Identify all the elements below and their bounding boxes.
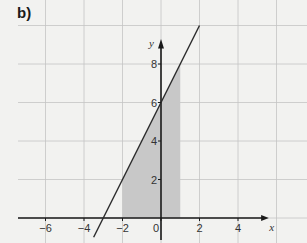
line-chart: −6−4−20242468xy [0, 0, 307, 243]
x-tick-label: −4 [78, 222, 91, 234]
x-tick-label: −6 [39, 222, 52, 234]
y-tick-label: 4 [151, 135, 157, 147]
y-axis-label: y [148, 37, 154, 49]
x-axis-arrow-icon [261, 215, 269, 221]
y-tick-label: 8 [151, 58, 157, 70]
x-tick-label: 0 [153, 222, 159, 234]
x-tick-label: 4 [235, 222, 241, 234]
y-tick-label: 2 [151, 174, 157, 186]
y-axis-arrow-icon [158, 39, 164, 49]
x-tick-label: −2 [116, 222, 129, 234]
x-axis-label: x [268, 221, 274, 233]
y-tick-label: 6 [151, 97, 157, 109]
x-tick-label: 2 [196, 222, 202, 234]
